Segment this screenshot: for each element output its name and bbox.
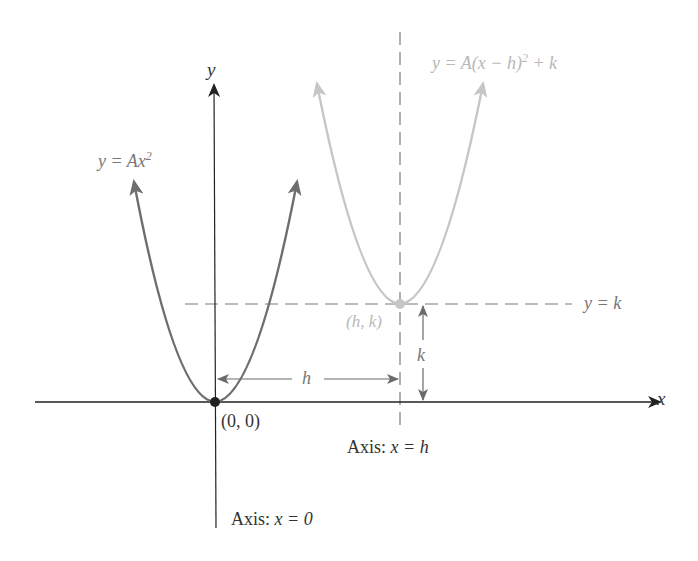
- axis-x-0-prefix: Axis:: [231, 509, 275, 529]
- shifted-vertex-point: [395, 299, 405, 309]
- base-equation-label: y = Ax2: [98, 150, 152, 170]
- shifted-parabola-right-branch: [400, 84, 483, 304]
- base-parabola-left-branch: [134, 182, 215, 402]
- shifted-equation-suffix: + k: [528, 53, 557, 73]
- base-equation-text: y = Ax: [98, 151, 146, 171]
- axis-x-0-label: Axis: x = 0: [231, 510, 313, 528]
- parabola-translation-diagram: [0, 0, 698, 561]
- h-dimension-label: h: [302, 369, 311, 387]
- shifted-vertex-label: (h, k): [346, 313, 382, 330]
- shifted-equation-label: y = A(x − h)2 + k: [432, 52, 557, 72]
- base-parabola-right-branch: [215, 182, 297, 402]
- horizontal-line-label: y = k: [584, 294, 621, 312]
- base-equation-exponent: 2: [146, 149, 152, 163]
- origin-label: (0, 0): [221, 412, 260, 430]
- axis-x-h-label: Axis: x = h: [347, 438, 429, 456]
- y-axis: [214, 85, 216, 528]
- shifted-parabola-left-branch: [317, 84, 400, 304]
- k-dimension-label: k: [417, 346, 425, 364]
- axis-x-h-equation: x = h: [391, 437, 429, 457]
- y-axis-label: y: [207, 60, 215, 79]
- x-axis-label: x: [657, 389, 665, 408]
- axis-x-0-equation: x = 0: [275, 509, 313, 529]
- origin-vertex-point: [210, 397, 220, 407]
- shifted-equation-text: y = A(x − h): [432, 53, 522, 73]
- axis-x-h-prefix: Axis:: [347, 437, 391, 457]
